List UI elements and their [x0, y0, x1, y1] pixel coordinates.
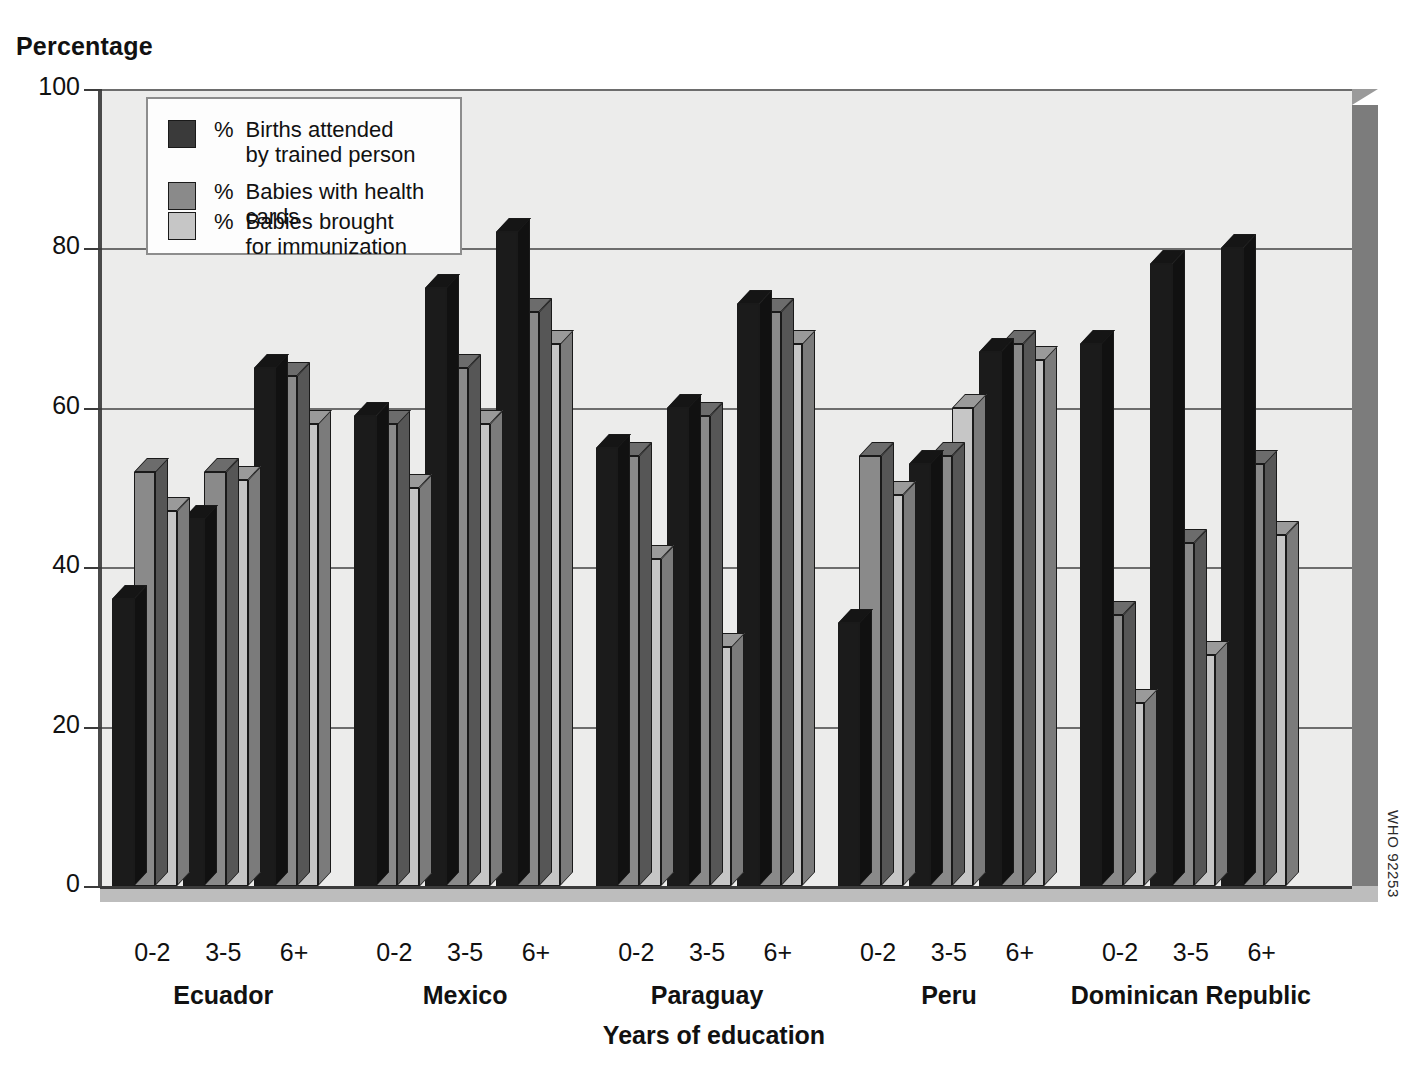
- bar-front-face: [354, 416, 376, 886]
- bar-side-face: [1215, 641, 1228, 886]
- bar-side-face: [1101, 330, 1114, 886]
- bar-side-face: [226, 458, 239, 886]
- y-tick-mark-60: [84, 408, 102, 410]
- bar-side-face: [397, 410, 410, 886]
- legend-swatch: [168, 182, 196, 210]
- bar-side-face: [1286, 521, 1299, 886]
- bar-front-face: [1080, 344, 1102, 886]
- bar-side-face: [446, 274, 459, 886]
- legend-label: Babies brought for immunization: [246, 209, 407, 260]
- bar-side-face: [617, 434, 630, 886]
- plot-right-wall-top-bevel: [1352, 89, 1378, 105]
- legend-percent-symbol: %: [214, 179, 234, 205]
- y-axis-line: [98, 89, 101, 888]
- y-tick-label-100: 100: [18, 72, 80, 101]
- y-tick-mark-0: [84, 886, 102, 888]
- bar-side-face: [903, 482, 916, 886]
- legend-item: %Babies brought for immunization: [168, 209, 407, 260]
- bar-side-face: [661, 545, 674, 886]
- y-tick-label-40: 40: [18, 550, 80, 579]
- bar-side-face: [297, 362, 310, 886]
- bar-side-face: [1123, 601, 1136, 886]
- bar-side-face: [419, 474, 432, 886]
- bar-side-face: [275, 354, 288, 886]
- bar-side-face: [539, 298, 552, 886]
- bar-side-face: [318, 410, 331, 886]
- bar-side-face: [881, 442, 894, 886]
- bar-side-face: [759, 290, 772, 886]
- y-tick-label-20: 20: [18, 710, 80, 739]
- bar-side-face: [781, 298, 794, 886]
- bar: [1080, 344, 1102, 886]
- legend-item: %Births attended by trained person: [168, 117, 416, 168]
- y-tick-label-0: 0: [18, 869, 80, 898]
- chart-legend: %Births attended by trained person%Babie…: [146, 97, 462, 255]
- bar-side-face: [1264, 450, 1277, 886]
- y-tick-mark-20: [84, 727, 102, 729]
- bar-side-face: [688, 394, 701, 886]
- bar-side-face: [376, 402, 389, 886]
- bar-side-face: [155, 458, 168, 886]
- x-axis-title: Years of education: [0, 1021, 1428, 1050]
- y-tick-label-60: 60: [18, 391, 80, 420]
- bar-side-face: [639, 442, 652, 886]
- y-tick-label-80: 80: [18, 231, 80, 260]
- gridline-0: [100, 886, 1352, 889]
- bar-side-face: [1144, 689, 1157, 886]
- x-tick-label: 6+: [249, 938, 339, 967]
- bar: [838, 623, 860, 886]
- x-tick-label: 6+: [733, 938, 823, 967]
- bar-side-face: [134, 585, 147, 886]
- bar-side-face: [517, 219, 530, 886]
- bar-front-face: [112, 599, 134, 886]
- bar-front-face: [596, 448, 618, 886]
- who-reference-code: WHO 92253: [1385, 810, 1402, 898]
- x-tick-label: 6+: [975, 938, 1065, 967]
- y-axis-title: Percentage: [16, 32, 153, 61]
- bar-side-face: [1023, 330, 1036, 886]
- bar-side-face: [248, 466, 261, 886]
- x-group-label: Dominican Republic: [1041, 981, 1341, 1010]
- bar-side-face: [973, 394, 986, 886]
- bar: [354, 416, 376, 886]
- bar-side-face: [710, 402, 723, 886]
- legend-label: Births attended by trained person: [246, 117, 416, 168]
- bar-side-face: [1001, 338, 1014, 886]
- y-tick-mark-100: [84, 89, 102, 91]
- bar-front-face: [838, 623, 860, 886]
- legend-percent-symbol: %: [214, 117, 234, 143]
- legend-percent-symbol: %: [214, 209, 234, 235]
- x-tick-label: 6+: [491, 938, 581, 967]
- bar-side-face: [560, 330, 573, 886]
- plot-right-wall: [1352, 103, 1378, 900]
- legend-swatch: [168, 120, 196, 148]
- bar-side-face: [731, 633, 744, 886]
- bar-side-face: [859, 609, 872, 886]
- x-tick-label: 6+: [1217, 938, 1307, 967]
- bar-side-face: [1172, 250, 1185, 886]
- bar-side-face: [468, 354, 481, 886]
- bar-side-face: [952, 442, 965, 886]
- bar-side-face: [1243, 234, 1256, 886]
- gridline-100: [100, 89, 1352, 91]
- y-tick-mark-80: [84, 248, 102, 250]
- bar-side-face: [802, 330, 815, 886]
- bar-side-face: [1194, 529, 1207, 886]
- bar-side-face: [490, 410, 503, 886]
- y-tick-mark-40: [84, 567, 102, 569]
- bar-side-face: [930, 450, 943, 886]
- bar-side-face: [177, 497, 190, 886]
- bar: [596, 448, 618, 886]
- legend-swatch: [168, 212, 196, 240]
- bar-side-face: [1044, 346, 1057, 886]
- bar: [112, 599, 134, 886]
- bar-side-face: [204, 505, 217, 886]
